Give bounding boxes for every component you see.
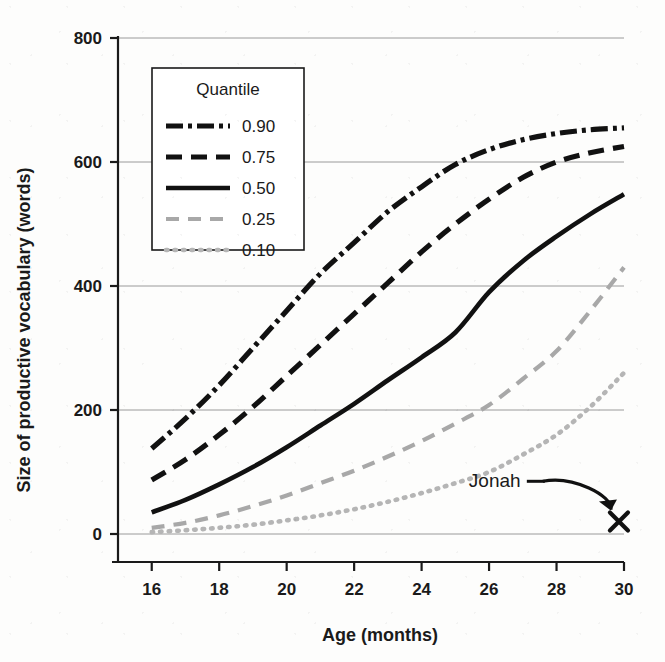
curve-quantile-0-25 <box>152 267 624 527</box>
x-tick-label: 30 <box>615 580 634 599</box>
legend-label-0-75: 0.75 <box>242 148 275 167</box>
y-tick-label: 800 <box>74 29 102 48</box>
curve-quantile-0-10 <box>152 373 624 532</box>
chart-legend: Quantile0.900.750.500.250.10 <box>152 68 304 260</box>
chart-figure: 0200400600800 1618202224262830 Size of p… <box>0 0 665 662</box>
chart-annotations: Jonah <box>469 470 628 530</box>
annotation-label-jonah: Jonah <box>469 470 521 491</box>
x-tick-label: 28 <box>547 580 566 599</box>
x-tick-label: 18 <box>210 580 229 599</box>
y-tick-label: 400 <box>74 277 102 296</box>
annotation-arrow-curve <box>543 480 611 509</box>
y-tick-label: 0 <box>93 525 102 544</box>
legend-label-0-50: 0.50 <box>242 179 275 198</box>
x-tick-label: 20 <box>277 580 296 599</box>
annotation-arrowhead <box>599 500 617 511</box>
x-tick-label: 22 <box>345 580 364 599</box>
y-tick-labels: 0200400600800 <box>74 29 102 544</box>
x-tick-label: 24 <box>412 580 431 599</box>
y-tick-label: 600 <box>74 153 102 172</box>
x-tick-label: 26 <box>480 580 499 599</box>
x-tick-labels: 1618202224262830 <box>142 580 633 599</box>
x-tick-label: 16 <box>142 580 161 599</box>
legend-label-0-90: 0.90 <box>242 117 275 136</box>
y-axis-title: Size of productive vocabulary (words) <box>14 167 34 492</box>
vocabulary-quantile-chart: 0200400600800 1618202224262830 Size of p… <box>0 0 665 662</box>
legend-label-0-25: 0.25 <box>242 210 275 229</box>
legend-label-0-10: 0.10 <box>242 241 275 260</box>
legend-title: Quantile <box>196 80 259 99</box>
y-tick-label: 200 <box>74 401 102 420</box>
x-axis-title: Age (months) <box>322 625 438 645</box>
